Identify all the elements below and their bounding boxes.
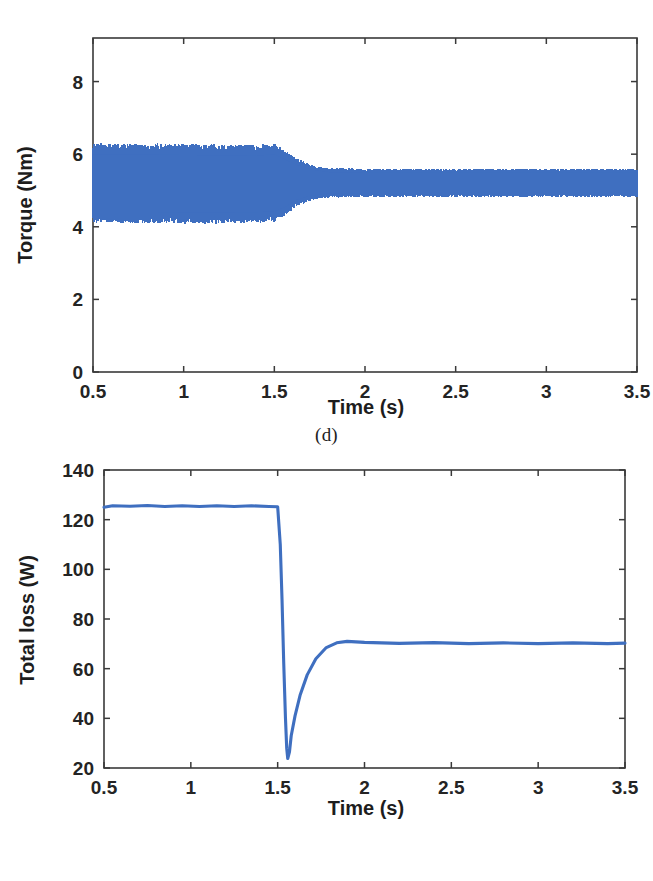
torque-x-axis-title: Time (s) xyxy=(328,396,404,418)
y-tick-label: 8 xyxy=(72,72,83,93)
torque-y-axis-title: Torque (Nm) xyxy=(14,146,36,263)
x-tick-label: 3 xyxy=(533,777,544,798)
y-tick-label: 6 xyxy=(72,144,83,165)
y-tick-label: 80 xyxy=(73,609,94,630)
x-tick-label: 1 xyxy=(186,777,197,798)
torque-tick-labels: 0.511.522.533.502468 xyxy=(72,72,650,402)
total-loss-axes xyxy=(104,470,625,768)
total-loss-y-axis-title: Total loss (W) xyxy=(16,555,38,685)
chart-panel-total-loss: 0.511.522.533.520406080100120140 Time (s… xyxy=(0,440,653,881)
y-tick-label: 40 xyxy=(73,708,94,729)
x-tick-label: 0.5 xyxy=(91,777,118,798)
x-tick-label: 1 xyxy=(178,381,189,402)
y-tick-label: 0 xyxy=(72,362,83,383)
figure-container: 0.511.522.533.502468 Time (s) Torque (Nm… xyxy=(0,0,653,881)
x-tick-label: 0.5 xyxy=(80,381,107,402)
x-tick-label: 3.5 xyxy=(624,381,651,402)
x-tick-label: 2 xyxy=(359,777,370,798)
total-loss-line xyxy=(104,506,625,759)
chart-panel-torque: 0.511.522.533.502468 Time (s) Torque (Nm… xyxy=(0,0,653,460)
y-tick-label: 4 xyxy=(72,217,83,238)
y-tick-label: 2 xyxy=(72,289,83,310)
x-tick-label: 3.5 xyxy=(612,777,639,798)
y-tick-label: 120 xyxy=(62,510,94,531)
torque-ripple-band xyxy=(93,143,637,223)
y-tick-label: 140 xyxy=(62,460,94,481)
x-tick-label: 1.5 xyxy=(261,381,288,402)
total-loss-tick-labels: 0.511.522.533.520406080100120140 xyxy=(62,460,638,798)
y-tick-label: 60 xyxy=(73,659,94,680)
torque-plot: 0.511.522.533.502468 Time (s) Torque (Nm… xyxy=(0,0,653,460)
x-tick-label: 3 xyxy=(541,381,552,402)
x-tick-label: 2.5 xyxy=(442,381,469,402)
total-loss-x-axis-title: Time (s) xyxy=(328,797,404,819)
y-tick-label: 100 xyxy=(62,559,94,580)
y-tick-label: 20 xyxy=(73,758,94,779)
total-loss-plot: 0.511.522.533.520406080100120140 Time (s… xyxy=(0,440,653,881)
x-tick-label: 2.5 xyxy=(438,777,465,798)
x-tick-label: 1.5 xyxy=(264,777,291,798)
